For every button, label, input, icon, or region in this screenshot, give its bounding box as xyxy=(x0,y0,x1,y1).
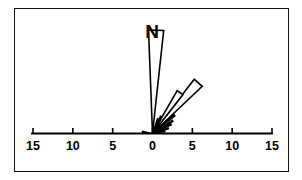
rose-diagram-figure: 15105051015 N xyxy=(0,0,302,180)
axis-tick-label: 5 xyxy=(109,139,116,153)
petals-group xyxy=(142,30,202,133)
north-label: N xyxy=(145,21,159,42)
horizontal-axis: 15105051015 xyxy=(26,128,279,153)
axis-tick-labels-group: 15105051015 xyxy=(26,139,279,153)
axis-tick-label: 10 xyxy=(225,139,239,153)
rose-diagram-plot: 15105051015 N xyxy=(0,0,302,180)
axis-tick-label: 15 xyxy=(26,139,40,153)
axis-tick-label: 10 xyxy=(66,139,80,153)
axis-tick-label: 0 xyxy=(149,139,156,153)
axis-tick-label: 15 xyxy=(265,139,279,153)
petal-ne-outer xyxy=(153,79,203,133)
axis-tick-label: 5 xyxy=(189,139,196,153)
